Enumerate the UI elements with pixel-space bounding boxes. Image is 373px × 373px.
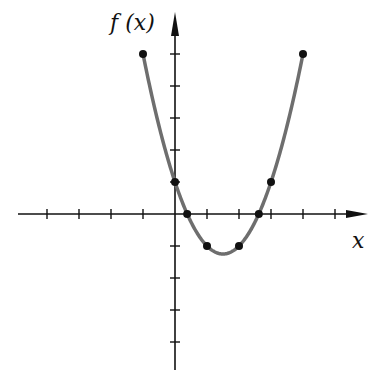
- data-point: [183, 210, 191, 218]
- data-point: [299, 50, 307, 58]
- x-axis-label: x: [352, 228, 364, 253]
- function-graph: [0, 0, 373, 373]
- data-point: [203, 242, 211, 250]
- y-axis-label: f (x): [110, 10, 155, 35]
- data-point: [255, 210, 263, 218]
- parabola-curve: [143, 54, 303, 254]
- data-point: [171, 178, 179, 186]
- data-point: [267, 178, 275, 186]
- data-point: [139, 50, 147, 58]
- x-axis-arrow-icon: [346, 210, 368, 218]
- data-point: [235, 242, 243, 250]
- y-axis-arrow-icon: [171, 12, 179, 36]
